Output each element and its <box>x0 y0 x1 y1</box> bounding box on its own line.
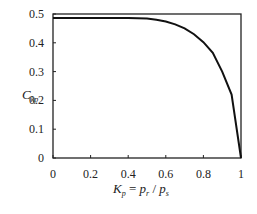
data-line <box>53 18 241 158</box>
y-ticks: 00.10.20.30.40.5 <box>29 7 56 165</box>
plot-frame <box>53 14 241 158</box>
x-axis-label: Kp = pr / ps <box>112 181 169 198</box>
chart: 00.10.20.30.40.5 00.20.40.60.81 Ckp Kp =… <box>0 0 257 214</box>
y-tick-label: 0.5 <box>29 7 44 21</box>
x-tick-label: 0 <box>50 167 56 181</box>
y-tick-label: 0.1 <box>29 122 44 136</box>
y-tick-label: 0.4 <box>29 36 44 50</box>
y-axis-label: Ckp <box>22 87 38 104</box>
x-tick-label: 0.4 <box>121 167 136 181</box>
plot-area: 00.10.20.30.40.5 00.20.40.60.81 <box>29 7 244 181</box>
x-tick-label: 0.6 <box>158 167 173 181</box>
x-tick-label: 0.8 <box>196 167 211 181</box>
x-tick-label: 0.2 <box>83 167 98 181</box>
y-tick-label: 0.3 <box>29 65 44 79</box>
x-ticks: 00.20.40.60.81 <box>50 155 244 181</box>
y-tick-label: 0 <box>38 151 44 165</box>
x-tick-label: 1 <box>238 167 244 181</box>
